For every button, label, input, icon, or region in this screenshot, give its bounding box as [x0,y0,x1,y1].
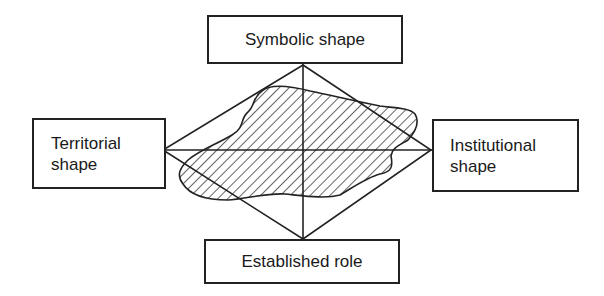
established-role-box: Established role [204,239,400,284]
territorial-shape-label-line1: Territorial [51,133,121,154]
symbolic-shape-label: Symbolic shape [245,29,365,50]
established-role-label: Established role [242,251,363,272]
symbolic-shape-box: Symbolic shape [207,15,403,64]
institutional-shape-label-line1: Institutional [450,135,536,156]
institutional-shape-label-line2: shape [450,156,496,177]
institutional-shape-box: Institutional shape [432,119,579,192]
territorial-shape-box: Territorial shape [32,118,166,189]
territorial-shape-label-line2: shape [51,154,97,175]
